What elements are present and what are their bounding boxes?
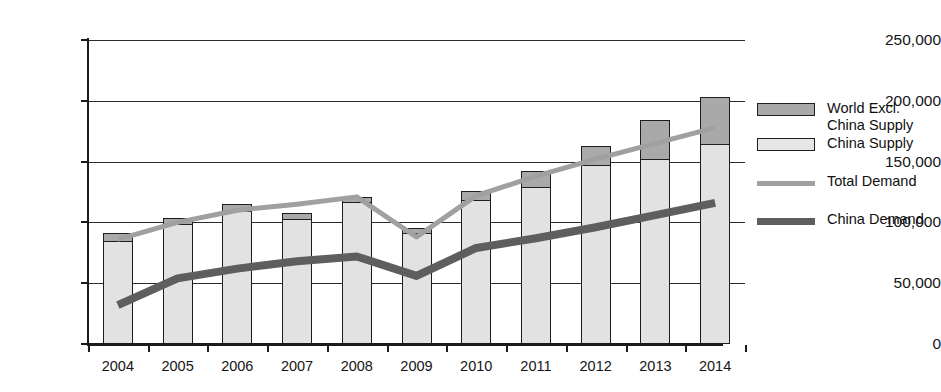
x-axis (87, 343, 723, 346)
y-axis-tick-label: 0 (863, 336, 941, 352)
x-axis-tick-mark (267, 345, 269, 352)
y-axis-tick-label: 50,000 (863, 275, 941, 291)
plot-area (88, 40, 745, 344)
legend-item-label: China Demand (827, 211, 939, 228)
x-axis-tick-mark (506, 345, 508, 352)
x-axis-tick-label: 2010 (446, 358, 506, 374)
x-axis-tick-label: 2011 (506, 358, 566, 374)
chart-container: 050,000100,000150,000200,000250,000 2004… (0, 0, 941, 392)
legend-swatch-icon (757, 218, 815, 225)
x-axis-tick-mark (446, 345, 448, 352)
legend-item[interactable]: World Excl. China Supply (757, 100, 937, 122)
x-axis-tick-label: 2007 (267, 358, 327, 374)
x-axis-tick-label: 2005 (148, 358, 208, 374)
x-axis-tick-mark (387, 345, 389, 352)
x-axis-tick-label: 2008 (327, 358, 387, 374)
x-axis-tick-label: 2006 (207, 358, 267, 374)
legend-swatch-icon (757, 138, 815, 151)
x-axis-tick-mark (566, 345, 568, 352)
line-series-group (88, 40, 745, 344)
x-axis-tick-mark (148, 345, 150, 352)
x-axis-tick-label: 2009 (387, 358, 447, 374)
y-axis (87, 38, 89, 346)
x-axis-tick-mark (327, 345, 329, 352)
x-axis-tick-label: 2013 (625, 358, 685, 374)
x-axis-tick-mark (626, 345, 628, 352)
legend-swatch-icon (757, 181, 815, 186)
x-axis-tick-label: 2012 (566, 358, 626, 374)
x-axis-tick-label: 2004 (88, 358, 148, 374)
chart-title (190, 0, 610, 4)
legend-item-label: World Excl. China Supply (827, 100, 939, 134)
x-axis-tick-label: 2014 (685, 358, 745, 374)
legend-item-label: Total Demand (827, 173, 939, 190)
x-axis-tick-mark (745, 345, 747, 352)
x-axis-tick-mark (88, 345, 90, 352)
chart-legend: World Excl. China SupplyChina SupplyTota… (757, 100, 937, 246)
legend-item[interactable]: China Demand (757, 211, 937, 233)
legend-item[interactable]: China Supply (757, 135, 937, 157)
legend-swatch-icon (757, 103, 815, 116)
x-axis-tick-mark (685, 345, 687, 352)
y-axis-tick-label: 250,000 (863, 32, 941, 48)
x-axis-tick-mark (207, 345, 209, 352)
legend-item-label: China Supply (827, 135, 939, 152)
legend-item[interactable]: Total Demand (757, 173, 937, 195)
